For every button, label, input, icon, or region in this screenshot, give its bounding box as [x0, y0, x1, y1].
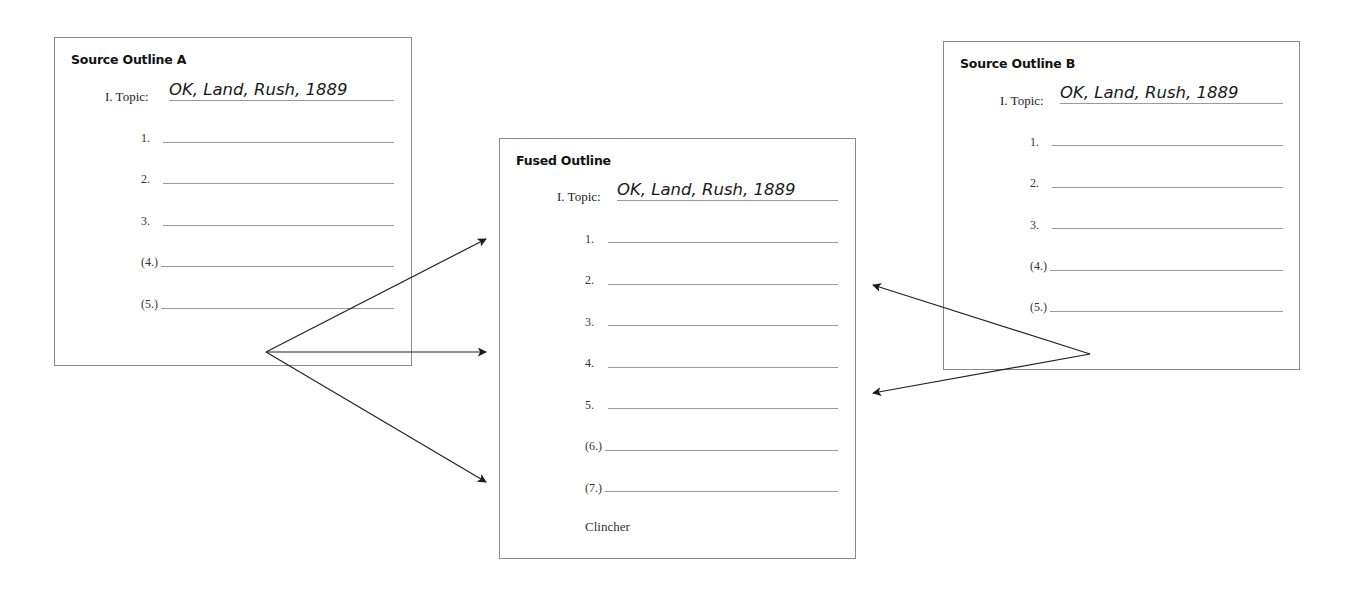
item-line[interactable]: [161, 266, 394, 267]
item-line[interactable]: [608, 325, 838, 326]
item-number: (7.): [585, 481, 602, 496]
topic-value: OK, Land, Rush, 1889: [169, 80, 347, 99]
item-line[interactable]: [161, 308, 394, 309]
source-outline-a-title: Source Outline A: [71, 52, 186, 67]
item-number: 1.: [1030, 135, 1039, 150]
item-line[interactable]: [608, 408, 838, 409]
fused-outline: Fused Outline I. Topic: OK, Land, Rush, …: [499, 138, 856, 559]
item-number: 2.: [585, 273, 594, 288]
item-number: 3.: [1030, 218, 1039, 233]
topic-line: [617, 200, 838, 201]
item-line[interactable]: [1050, 270, 1283, 271]
item-number: 5.: [585, 398, 594, 413]
item-number: 1.: [585, 232, 594, 247]
source-outline-b: Source Outline B I. Topic: OK, Land, Rus…: [943, 41, 1300, 370]
source-outline-b-title: Source Outline B: [960, 56, 1075, 71]
item-number: 1.: [141, 131, 150, 146]
item-number: (4.): [1030, 259, 1047, 274]
item-line[interactable]: [608, 284, 838, 285]
item-number: 3.: [141, 214, 150, 229]
item-line[interactable]: [1052, 145, 1283, 146]
item-number: 4.: [585, 356, 594, 371]
topic-line: [1060, 103, 1283, 104]
item-line[interactable]: [1050, 311, 1283, 312]
topic-value: OK, Land, Rush, 1889: [1060, 83, 1238, 102]
topic-label: I. Topic:: [557, 189, 601, 205]
item-number: (4.): [141, 255, 158, 270]
item-line[interactable]: [163, 183, 394, 184]
item-line[interactable]: [608, 242, 838, 243]
item-line[interactable]: [1052, 187, 1283, 188]
item-line[interactable]: [1052, 228, 1283, 229]
source-outline-a: Source Outline A I. Topic: OK, Land, Rus…: [54, 37, 412, 366]
topic-label: I. Topic:: [105, 89, 149, 105]
item-line[interactable]: [605, 491, 838, 492]
item-number: (5.): [1030, 300, 1047, 315]
topic-line: [169, 100, 394, 101]
item-line[interactable]: [163, 225, 394, 226]
item-number: 2.: [1030, 176, 1039, 191]
topic-value: OK, Land, Rush, 1889: [617, 180, 795, 199]
item-number: 3.: [585, 315, 594, 330]
fused-outline-title: Fused Outline: [516, 153, 611, 168]
clincher-label: Clincher: [585, 519, 630, 535]
item-number: 2.: [141, 172, 150, 187]
topic-label: I. Topic:: [1000, 93, 1044, 109]
item-line[interactable]: [608, 367, 838, 368]
item-number: (5.): [141, 297, 158, 312]
item-number: (6.): [585, 439, 602, 454]
arrow-a-to-fused-lower: [266, 352, 486, 482]
item-line[interactable]: [163, 142, 394, 143]
item-line[interactable]: [605, 450, 838, 451]
